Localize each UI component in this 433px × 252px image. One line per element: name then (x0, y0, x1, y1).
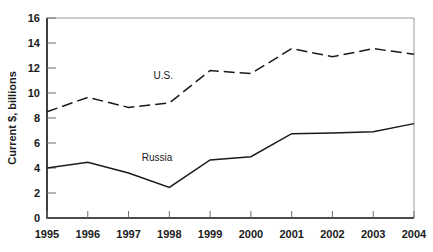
axis-lines (47, 18, 414, 218)
series-annotations: U.S.Russia (142, 70, 173, 164)
x-tick-label: 2004 (402, 228, 427, 240)
chart-canvas: 0246810121416 19951996199719981999200020… (0, 0, 433, 252)
x-axis-tick-marks (47, 211, 414, 218)
line-chart: 0246810121416 19951996199719981999200020… (0, 0, 433, 252)
y-tick-label: 16 (28, 12, 40, 24)
y-tick-label: 8 (34, 112, 40, 124)
x-tick-label: 1995 (35, 228, 59, 240)
x-tick-label: 2001 (279, 228, 303, 240)
x-tick-label: 1997 (116, 228, 140, 240)
data-series-group (47, 49, 414, 188)
plot-frame (47, 18, 414, 218)
x-tick-label: 1999 (198, 228, 222, 240)
y-tick-label: 10 (28, 87, 40, 99)
y-tick-label: 12 (28, 62, 40, 74)
x-tick-label: 1998 (157, 228, 181, 240)
y-axis-tick-labels: 0246810121416 (28, 12, 41, 224)
y-axis-title: Current $, billions (6, 71, 18, 165)
y-tick-label: 2 (34, 187, 40, 199)
y-tick-label: 6 (34, 137, 40, 149)
x-tick-label: 2002 (320, 228, 344, 240)
series-annotation-u-s: U.S. (153, 70, 172, 81)
series-line-russia (47, 124, 414, 188)
series-line-u-s (47, 49, 414, 112)
x-tick-label: 2000 (239, 228, 263, 240)
x-tick-label: 2003 (361, 228, 385, 240)
y-tick-label: 14 (28, 37, 41, 49)
y-tick-label: 0 (34, 212, 40, 224)
x-axis-tick-labels: 1995199619971998199920002001200220032004 (35, 228, 427, 240)
y-tick-label: 4 (34, 162, 41, 174)
series-annotation-russia: Russia (142, 152, 173, 163)
x-tick-label: 1996 (76, 228, 100, 240)
